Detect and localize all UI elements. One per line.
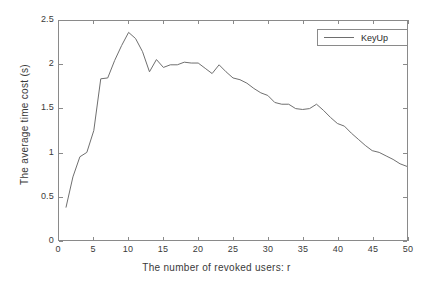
- y-tick-right: [403, 197, 407, 198]
- x-tick: [163, 237, 164, 241]
- y-tick: [59, 197, 63, 198]
- x-tick-label: 25: [218, 244, 248, 254]
- x-tick: [303, 237, 304, 241]
- y-tick: [59, 108, 63, 109]
- x-tick-top: [373, 20, 374, 24]
- x-tick-label: 40: [323, 244, 353, 254]
- y-tick-label: 0.5: [28, 191, 54, 201]
- y-tick: [59, 20, 63, 21]
- x-tick: [93, 237, 94, 241]
- x-tick-label: 35: [288, 244, 318, 254]
- y-tick-right: [403, 108, 407, 109]
- y-tick-right: [403, 20, 407, 21]
- x-tick-label: 0: [43, 244, 73, 254]
- chart-figure: 05101520253035404550 00.511.522.5 The nu…: [0, 0, 433, 287]
- x-tick-label: 20: [183, 244, 213, 254]
- x-tick: [373, 237, 374, 241]
- y-tick-label: 1: [28, 147, 54, 157]
- x-tick: [233, 237, 234, 241]
- x-tick-top: [233, 20, 234, 24]
- x-axis-label: The number of revoked users: r: [0, 262, 433, 273]
- x-tick-label: 30: [253, 244, 283, 254]
- plot-area: [58, 20, 408, 241]
- x-tick: [198, 237, 199, 241]
- x-tick-top: [93, 20, 94, 24]
- chart-legend: KeyUp: [317, 29, 408, 46]
- x-tick: [128, 237, 129, 241]
- x-tick-top: [163, 20, 164, 24]
- x-tick-label: 5: [78, 244, 108, 254]
- y-tick-label: 2: [28, 58, 54, 68]
- x-tick-top: [303, 20, 304, 24]
- y-tick-label: 2.5: [28, 14, 54, 24]
- x-tick-label: 10: [113, 244, 143, 254]
- y-tick-label: 0: [28, 235, 54, 245]
- x-tick-top: [338, 20, 339, 24]
- x-tick-label: 50: [393, 244, 423, 254]
- x-tick: [268, 237, 269, 241]
- legend-line-sample-keyup: [324, 37, 354, 38]
- x-tick-top: [198, 20, 199, 24]
- x-tick: [408, 237, 409, 241]
- series-line-keyup: [59, 21, 407, 240]
- x-tick-label: 15: [148, 244, 178, 254]
- y-tick: [59, 241, 63, 242]
- y-tick: [59, 64, 63, 65]
- x-tick-top: [268, 20, 269, 24]
- x-tick-label: 45: [358, 244, 388, 254]
- y-tick: [59, 153, 63, 154]
- y-axis-label: The average time cost (s): [19, 15, 30, 235]
- y-tick-right: [403, 64, 407, 65]
- x-tick-top: [408, 20, 409, 24]
- x-tick-top: [128, 20, 129, 24]
- legend-label-keyup: KeyUp: [361, 33, 388, 43]
- y-tick-label: 1.5: [28, 102, 54, 112]
- y-tick-right: [403, 241, 407, 242]
- x-tick: [338, 237, 339, 241]
- y-tick-right: [403, 153, 407, 154]
